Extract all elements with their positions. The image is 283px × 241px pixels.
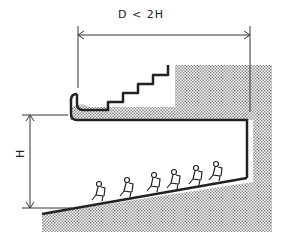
height-label: H (14, 149, 27, 158)
dimension-h (22, 115, 72, 208)
seated-figure-icon (92, 182, 105, 202)
seated-figure-icon (209, 162, 222, 182)
seated-figure-icon (167, 170, 180, 190)
seated-figure-icon (120, 178, 133, 198)
seated-figure-icon (147, 173, 160, 193)
seated-figure-icon (189, 166, 202, 186)
balcony-section-diagram (0, 0, 283, 241)
depth-rule-label: D < 2H (118, 8, 164, 21)
